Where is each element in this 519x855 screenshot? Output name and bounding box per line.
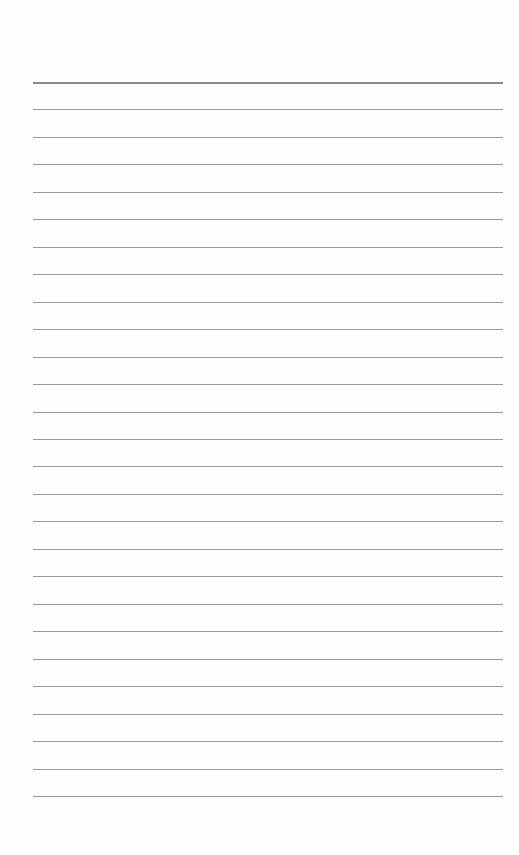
rule-line bbox=[33, 192, 503, 193]
rule-line bbox=[33, 247, 503, 248]
rule-line bbox=[33, 769, 503, 770]
rule-line bbox=[33, 274, 503, 275]
rule-line bbox=[33, 576, 503, 577]
lined-paper-page bbox=[0, 0, 519, 855]
rule-line bbox=[33, 384, 503, 385]
rule-line bbox=[33, 604, 503, 605]
rule-line bbox=[33, 741, 503, 742]
rule-line bbox=[33, 686, 503, 687]
rule-line bbox=[33, 631, 503, 632]
rule-line bbox=[33, 412, 503, 413]
rule-line bbox=[33, 329, 503, 330]
rule-line bbox=[33, 521, 503, 522]
rule-line bbox=[33, 164, 503, 165]
rule-line bbox=[33, 357, 503, 358]
rule-line bbox=[33, 302, 503, 303]
rule-line bbox=[33, 109, 503, 110]
rule-line bbox=[33, 796, 503, 797]
rule-line bbox=[33, 466, 503, 467]
top-rule-line bbox=[33, 82, 503, 84]
rule-line bbox=[33, 714, 503, 715]
rule-line bbox=[33, 137, 503, 138]
rule-line bbox=[33, 439, 503, 440]
rule-line bbox=[33, 219, 503, 220]
rule-line bbox=[33, 494, 503, 495]
rule-line bbox=[33, 659, 503, 660]
rule-line bbox=[33, 549, 503, 550]
